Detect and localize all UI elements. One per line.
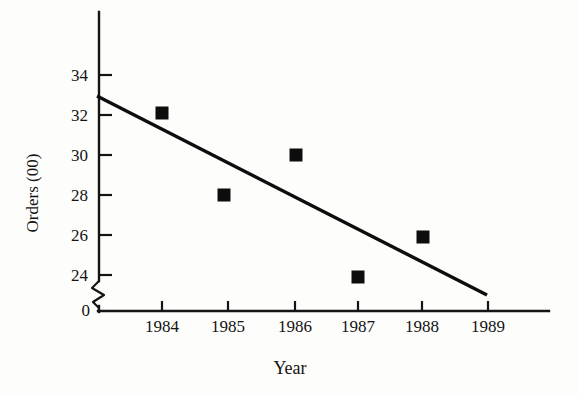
y-tick-label-24: 24 bbox=[71, 267, 88, 284]
x-tick-label-1985: 1985 bbox=[211, 318, 245, 335]
data-point-1987 bbox=[352, 271, 365, 284]
y-tick-label-26: 26 bbox=[71, 227, 88, 244]
data-point-1984 bbox=[156, 107, 169, 120]
y-tick-label-34: 34 bbox=[71, 67, 88, 84]
x-tick-label-1984: 1984 bbox=[145, 318, 179, 335]
data-point-1988 bbox=[417, 231, 430, 244]
y-axis-origin-label: 0 bbox=[82, 302, 91, 319]
chart-figure: Orders (00) 34 32 30 28 26 24 0 1984 198… bbox=[0, 0, 578, 396]
y-axis-break-icon bbox=[92, 281, 104, 308]
y-axis-title: Orders (00) bbox=[23, 154, 42, 233]
y-tick-label-32: 32 bbox=[71, 107, 88, 124]
y-tick-label-28: 28 bbox=[71, 187, 88, 204]
x-tick-label-1989: 1989 bbox=[471, 318, 505, 335]
x-tick-label-1987: 1987 bbox=[341, 318, 375, 335]
data-point-1986 bbox=[290, 149, 303, 162]
data-point-1985 bbox=[218, 189, 231, 202]
x-axis-title: Year bbox=[273, 358, 306, 379]
y-tick-label-30: 30 bbox=[71, 147, 88, 164]
x-tick-label-1986: 1986 bbox=[278, 318, 312, 335]
x-tick-label-1988: 1988 bbox=[405, 318, 439, 335]
x-axis-ticks bbox=[162, 301, 488, 311]
trend-line bbox=[97, 96, 487, 295]
y-axis-ticks bbox=[99, 75, 112, 275]
